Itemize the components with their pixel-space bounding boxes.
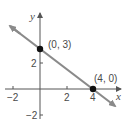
data-line-start-arrow bbox=[10, 26, 20, 34]
point-label-0-3: (0, 3) bbox=[48, 39, 71, 50]
y-tick-label-neg2: −2 bbox=[26, 110, 38, 120]
point-0-3 bbox=[37, 46, 43, 52]
x-tick-label-2: 2 bbox=[64, 92, 70, 103]
x-tick-label-4: 4 bbox=[90, 92, 96, 103]
x-axis-label: x bbox=[115, 90, 121, 102]
y-tick-label-2: 2 bbox=[31, 58, 37, 69]
chart-canvas: y x −2 2 4 2 −2 (0, 3) (4, 0) bbox=[0, 0, 126, 120]
point-label-4-0: (4, 0) bbox=[94, 73, 117, 84]
y-axis-label: y bbox=[29, 10, 35, 22]
x-tick-label-neg2: −2 bbox=[7, 92, 19, 103]
chart-figure: y x −2 2 4 2 −2 (0, 3) (4, 0) bbox=[0, 0, 126, 120]
